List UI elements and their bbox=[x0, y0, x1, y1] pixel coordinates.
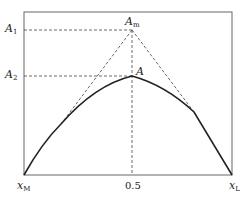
label-xm: xM bbox=[17, 180, 30, 193]
label-a2: A2 bbox=[5, 69, 17, 82]
solid-curve bbox=[24, 76, 232, 175]
dashed-tangent-left bbox=[61, 30, 132, 124]
diagram-canvas bbox=[0, 0, 252, 197]
plot-frame bbox=[24, 12, 232, 175]
label-xl: xL bbox=[229, 180, 240, 193]
label-am: Am bbox=[125, 16, 140, 29]
label-midpoint: 0.5 bbox=[125, 181, 141, 191]
label-a1: A1 bbox=[5, 23, 17, 36]
label-a: A bbox=[136, 66, 144, 77]
